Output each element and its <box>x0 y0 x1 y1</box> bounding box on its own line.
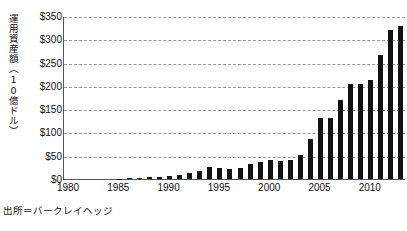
y-tick-label: $200 <box>16 82 62 92</box>
bar <box>217 168 222 179</box>
x-tick-label: 2010 <box>359 182 381 194</box>
y-tick-label: $150 <box>16 105 62 115</box>
bar <box>177 175 182 179</box>
plot-area <box>63 17 405 180</box>
x-tick-label: 1995 <box>208 182 230 194</box>
bar <box>298 155 303 179</box>
bar <box>207 167 212 179</box>
y-tick-label: $50 <box>16 152 62 162</box>
bar <box>338 100 343 179</box>
bar <box>358 84 363 179</box>
x-tick-label: 2000 <box>258 182 280 194</box>
bar <box>378 55 383 179</box>
x-axis-tick-labels: 1980198519901995200020052010 <box>63 182 405 198</box>
y-axis-tick-labels: $0$50$100$150$200$250$300$350 <box>16 0 62 231</box>
source-note: 出所＝バークレイヘッジ <box>3 205 113 217</box>
y-tick-label: $350 <box>16 12 62 22</box>
y-tick-label: $100 <box>16 128 62 138</box>
bar <box>288 160 293 179</box>
bar <box>167 176 172 179</box>
bar <box>227 169 232 179</box>
bar-series <box>64 17 405 179</box>
bar <box>368 80 373 179</box>
bar <box>147 177 152 179</box>
bar <box>278 161 283 179</box>
bar <box>127 178 132 179</box>
bar <box>348 84 353 179</box>
bar <box>318 118 323 179</box>
bar-chart: 運用資産額（10億ドル） $0$50$100$150$200$250$300$3… <box>0 0 407 231</box>
x-tick-label: 1990 <box>157 182 179 194</box>
bar <box>328 118 333 179</box>
bar <box>258 162 263 179</box>
x-tick-label: 1980 <box>57 182 79 194</box>
y-tick-label: $0 <box>16 175 62 185</box>
bar <box>187 173 192 179</box>
y-tick-label: $300 <box>16 35 62 45</box>
bar <box>398 26 403 179</box>
x-tick-label: 2005 <box>308 182 330 194</box>
x-tick-label: 1985 <box>107 182 129 194</box>
bar <box>268 160 273 179</box>
bar <box>197 171 202 179</box>
bar <box>388 30 393 179</box>
bar <box>308 139 313 179</box>
bar <box>137 178 142 179</box>
bar <box>238 168 243 179</box>
y-tick-label: $250 <box>16 59 62 69</box>
bar <box>248 164 253 179</box>
bar <box>157 177 162 179</box>
